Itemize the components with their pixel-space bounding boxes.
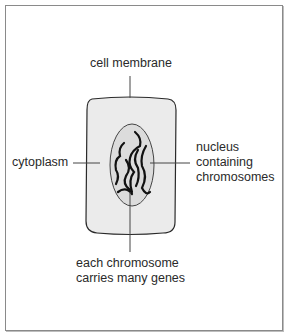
label-cell-membrane: cell membrane: [88, 56, 174, 71]
label-nucleus-1: nucleus: [196, 140, 239, 155]
label-cytoplasm: cytoplasm: [12, 155, 68, 170]
label-nucleus-3: chromosomes: [196, 170, 275, 185]
label-chromosome-2: carries many genes: [76, 271, 185, 286]
label-chromosome-1: each chromosome: [76, 256, 179, 271]
label-nucleus-2: containing: [196, 155, 253, 170]
